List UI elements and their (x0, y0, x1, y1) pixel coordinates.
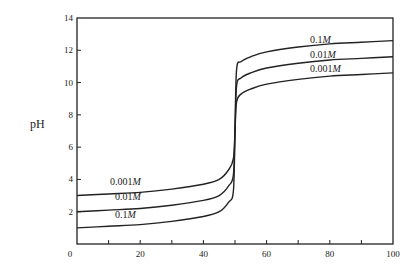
x-tick-label: 100 (386, 249, 400, 259)
x-tick-label: 0 (68, 249, 73, 259)
x-tick-label: 80 (325, 249, 335, 259)
y-tick-label: 6 (69, 142, 74, 152)
y-tick-label: 8 (69, 110, 74, 120)
y-tick-label: 10 (64, 78, 74, 88)
y-tick-label: 12 (64, 45, 73, 55)
x-tick-label: 60 (262, 249, 272, 259)
x-tick-label: 20 (136, 249, 146, 259)
y-tick-label: 4 (69, 174, 74, 184)
curve-label-0.1M: 0.1M (310, 34, 332, 45)
x-tick-label: 40 (199, 249, 209, 259)
y-tick-label: 14 (64, 13, 74, 23)
y-tick-label: 2 (69, 207, 74, 217)
curve-label-0.01M: 0.01M (310, 49, 337, 60)
curve-label-0.001M: 0.001M (110, 176, 142, 187)
curve-label-0.001M: 0.001M (310, 63, 342, 74)
curve-label-0.01M: 0.01M (115, 191, 142, 202)
curve-label-0.1M: 0.1M (115, 209, 137, 220)
titration-chart: 0204060801002468101214 0.1M0.1M0.01M0.01… (0, 0, 420, 274)
plot-axes: 0204060801002468101214 (64, 13, 400, 259)
y-axis-label: pH (30, 117, 45, 131)
